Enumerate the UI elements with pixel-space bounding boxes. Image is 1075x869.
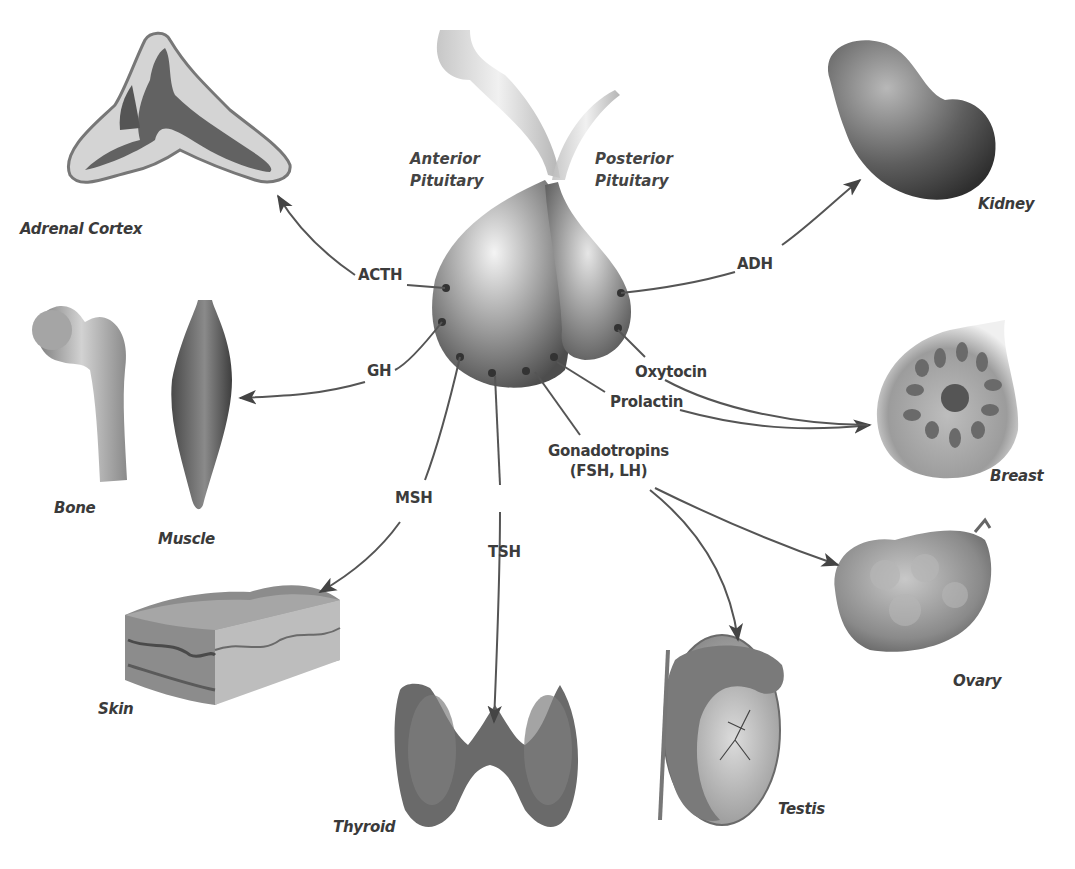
posterior-pituitary-label: Posterior Pituitary (595, 148, 673, 192)
prolactin-pathway (557, 362, 605, 392)
msh-pathway (425, 357, 460, 480)
anterior-label-line2: Pituitary (410, 170, 484, 192)
testis-illustration (660, 635, 784, 825)
organ-label-testis: Testis (778, 800, 825, 818)
adrenal-cortex-illustration (68, 33, 290, 182)
pituitary-hormone-diagram (0, 0, 1075, 869)
organ-label-adrenal-cortex: Adrenal Cortex (20, 220, 142, 238)
hormone-gh: GH (367, 361, 391, 381)
hormone-oxytocin: Oxytocin (635, 362, 707, 382)
tsh-pathway (495, 376, 500, 485)
hormone-msh: MSH (395, 488, 432, 508)
hormone-adh: ADH (737, 254, 773, 274)
hormone-prolactin: Prolactin (610, 392, 683, 412)
hormone-acth: ACTH (358, 265, 402, 285)
organ-label-skin: Skin (98, 700, 133, 718)
posterior-label-line1: Posterior (595, 148, 673, 170)
gonadotropins-pathway (535, 372, 580, 435)
ovary-illustration (834, 520, 991, 652)
oxytocin-pathway (618, 330, 645, 357)
anterior-pituitary-label: Anterior Pituitary (410, 148, 484, 192)
gonadotropins-line1: Gonadotropins (548, 441, 669, 461)
pituitary-gland (432, 30, 631, 388)
adh-pathway (621, 272, 735, 293)
breast-illustration (877, 320, 1018, 478)
bone-illustration (32, 306, 127, 482)
organ-label-breast: Breast (990, 467, 1043, 485)
organ-label-bone: Bone (54, 499, 95, 517)
organ-label-kidney: Kidney (978, 195, 1034, 213)
gonadotropins-line2: (FSH, LH) (548, 461, 669, 481)
anterior-label-line1: Anterior (410, 148, 484, 170)
organ-label-ovary: Ovary (953, 672, 1001, 690)
posterior-label-line2: Pituitary (595, 170, 673, 192)
kidney-illustration (828, 40, 996, 199)
hormone-gonadotropins: Gonadotropins (FSH, LH) (548, 441, 669, 481)
skin-illustration (125, 585, 340, 705)
thyroid-illustration (395, 684, 578, 827)
organ-label-muscle: Muscle (158, 530, 215, 548)
hormone-tsh: TSH (488, 542, 521, 562)
muscle-illustration (171, 300, 232, 509)
organ-label-thyroid: Thyroid (333, 818, 395, 836)
